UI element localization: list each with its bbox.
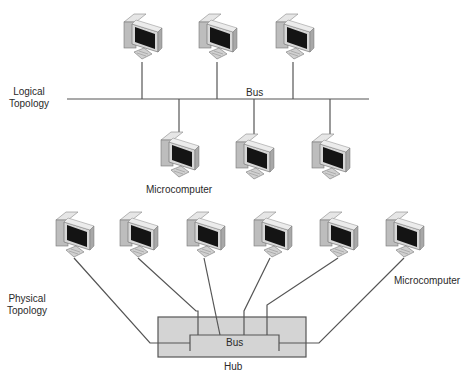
hub-bus-label: Bus <box>226 337 243 349</box>
computer-icon <box>116 208 160 260</box>
logical-bus-lines <box>67 62 369 136</box>
logical-topology-line2: Topology <box>4 98 54 110</box>
computer-icon <box>157 128 201 180</box>
computer-icon <box>120 10 164 62</box>
computer-icon <box>308 130 352 182</box>
hub-label: Hub <box>224 361 242 373</box>
topology-diagram: Logical Topology Bus Microcomputer Physi… <box>0 0 464 376</box>
computer-icon <box>272 10 316 62</box>
physical-topology-line2: Topology <box>4 305 50 317</box>
computer-icon <box>250 208 294 260</box>
physical-topology-label: Physical Topology <box>4 293 50 317</box>
logical-topology-label: Logical Topology <box>4 86 54 110</box>
computer-icon <box>195 10 239 62</box>
computer-icon <box>316 208 360 260</box>
logical-bus-label: Bus <box>246 87 263 99</box>
computer-icon <box>232 130 276 182</box>
computer-icon <box>183 208 227 260</box>
computer-icon <box>52 208 96 260</box>
physical-microcomputer-label: Microcomputer <box>394 275 460 287</box>
logical-microcomputer-label: Microcomputer <box>146 184 212 196</box>
computer-icon <box>382 208 426 260</box>
logical-topology-line1: Logical <box>4 86 54 98</box>
physical-topology-line1: Physical <box>4 293 50 305</box>
